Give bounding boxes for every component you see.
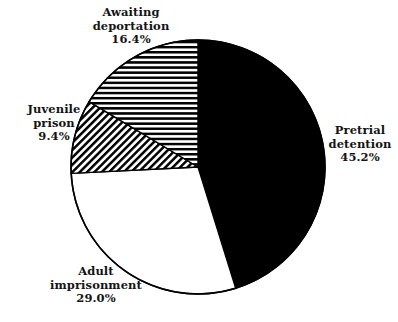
pie-label-juvenile-prison-value: 9.4% <box>2 130 106 144</box>
pie-label-awaiting-deportation-value: 16.4% <box>56 33 206 47</box>
pie-label-adult-imprisonment-line2: imprisonment <box>20 279 172 293</box>
pie-label-juvenile-prison-line1: Juvenile <box>2 103 106 117</box>
pie-label-pretrial-detention: Pretrial detention 45.2% <box>322 124 398 165</box>
pie-label-juvenile-prison: Juvenile prison 9.4% <box>2 103 106 144</box>
pie-slices-group <box>71 40 325 294</box>
pie-label-pretrial-detention-line1: Pretrial <box>322 124 398 138</box>
pie-label-adult-imprisonment-line1: Adult <box>20 265 172 279</box>
pie-label-adult-imprisonment: Adult imprisonment 29.0% <box>20 265 172 306</box>
pie-label-pretrial-detention-value: 45.2% <box>322 151 398 165</box>
pie-label-awaiting-deportation-line2: deportation <box>56 20 206 34</box>
pie-label-awaiting-deportation: Awaiting deportation 16.4% <box>56 6 206 47</box>
pie-label-juvenile-prison-line2: prison <box>2 117 106 131</box>
pie-label-awaiting-deportation-line1: Awaiting <box>56 6 206 20</box>
pie-label-adult-imprisonment-value: 29.0% <box>20 292 172 306</box>
pie-chart-figure: Awaiting deportation 16.4% Juvenile pris… <box>0 0 398 322</box>
pie-label-pretrial-detention-line2: detention <box>322 138 398 152</box>
